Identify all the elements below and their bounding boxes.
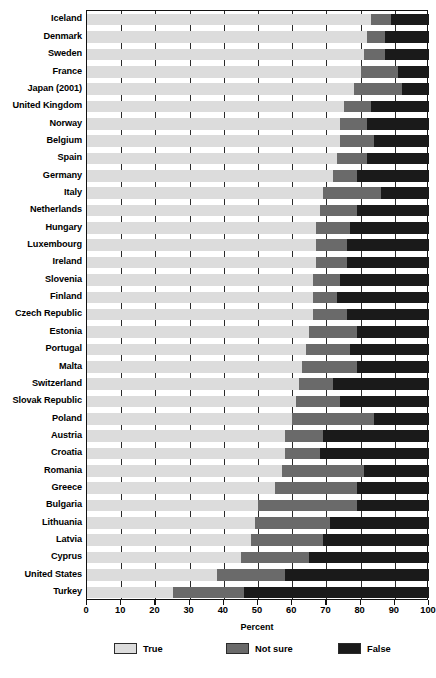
- bar-segment-false: [350, 344, 429, 356]
- legend-item-not-sure[interactable]: Not sure: [226, 643, 293, 654]
- bar-row: [87, 14, 427, 26]
- category-label: Malta: [0, 361, 82, 371]
- bar-row: [87, 534, 427, 546]
- bar-segment-false: [367, 118, 429, 130]
- bar-segment-false: [385, 31, 429, 43]
- bar-row: [87, 326, 427, 338]
- category-label: Lithuania: [0, 517, 82, 527]
- bar-segment-true: [87, 552, 241, 564]
- bar-segment-not-sure: [313, 274, 340, 286]
- bar-segment-true: [87, 534, 251, 546]
- tick-label: 80: [354, 605, 364, 615]
- tick-label: 90: [389, 605, 399, 615]
- bar-segment-true: [87, 344, 306, 356]
- bar-segment-false: [347, 239, 429, 251]
- category-label: Latvia: [0, 534, 82, 544]
- bar-row: [87, 257, 427, 269]
- bar-segment-not-sure: [367, 31, 384, 43]
- bar-segment-false: [357, 326, 429, 338]
- bar-row: [87, 552, 427, 564]
- bar-segment-not-sure: [173, 587, 245, 599]
- bar-segment-not-sure: [282, 465, 364, 477]
- bar-segment-not-sure: [309, 326, 357, 338]
- category-label: Japan (2001): [0, 83, 82, 93]
- bar-row: [87, 66, 427, 78]
- bar-segment-not-sure: [340, 135, 374, 147]
- category-label: Germany: [0, 170, 82, 180]
- bar-row: [87, 292, 427, 304]
- bar-segment-true: [87, 153, 337, 165]
- category-label: Estonia: [0, 326, 82, 336]
- category-label: Switzerland: [0, 378, 82, 388]
- plot-area: [86, 10, 428, 600]
- bar-segment-not-sure: [292, 413, 374, 425]
- category-label: Austria: [0, 430, 82, 440]
- category-label: Spain: [0, 152, 82, 162]
- bar-segment-true: [87, 482, 275, 494]
- bar-segment-true: [87, 500, 258, 512]
- bar-segment-not-sure: [316, 222, 350, 234]
- bar-segment-true: [87, 187, 323, 199]
- bar-segment-false: [347, 257, 429, 269]
- category-label: Poland: [0, 413, 82, 423]
- bar-segment-true: [87, 569, 217, 581]
- bar-segment-false: [391, 14, 429, 26]
- bar-row: [87, 482, 427, 494]
- bars-layer: [87, 11, 427, 599]
- bar-segment-false: [340, 396, 429, 408]
- bar-segment-not-sure: [340, 118, 367, 130]
- bar-segment-not-sure: [299, 378, 333, 390]
- bar-segment-true: [87, 465, 282, 477]
- category-label: Luxembourg: [0, 239, 82, 249]
- bar-segment-false: [323, 430, 429, 442]
- bar-segment-false: [357, 205, 429, 217]
- bar-segment-true: [87, 170, 333, 182]
- bar-row: [87, 153, 427, 165]
- bar-segment-true: [87, 361, 302, 373]
- bar-segment-false: [402, 83, 429, 95]
- legend-item-false[interactable]: False: [338, 643, 391, 654]
- bar-segment-not-sure: [313, 309, 347, 321]
- bar-row: [87, 378, 427, 390]
- bar-row: [87, 448, 427, 460]
- bar-segment-true: [87, 101, 344, 113]
- bar-segment-false: [350, 222, 429, 234]
- bar-row: [87, 274, 427, 286]
- bar-row: [87, 31, 427, 43]
- tick-label: 30: [183, 605, 193, 615]
- category-label: Italy: [0, 187, 82, 197]
- bar-row: [87, 205, 427, 217]
- bar-row: [87, 83, 427, 95]
- bar-segment-true: [87, 31, 367, 43]
- legend-item-true[interactable]: True: [114, 643, 163, 654]
- bar-row: [87, 135, 427, 147]
- bar-segment-not-sure: [217, 569, 285, 581]
- category-label: Romania: [0, 465, 82, 475]
- bar-row: [87, 187, 427, 199]
- bar-segment-true: [87, 587, 173, 599]
- legend: TrueNot sureFalse: [86, 643, 428, 663]
- bar-segment-true: [87, 413, 292, 425]
- bar-segment-false: [285, 569, 429, 581]
- bar-segment-not-sure: [361, 66, 399, 78]
- bar-segment-true: [87, 448, 285, 460]
- bar-segment-false: [367, 153, 429, 165]
- category-label: Turkey: [0, 586, 82, 596]
- bar-segment-true: [87, 135, 340, 147]
- tick-label: 10: [115, 605, 125, 615]
- bar-segment-false: [337, 292, 429, 304]
- x-axis-title: Percent: [86, 622, 428, 632]
- bar-segment-false: [357, 361, 429, 373]
- category-label: United States: [0, 569, 82, 579]
- bar-segment-false: [398, 66, 429, 78]
- category-label: Portugal: [0, 343, 82, 353]
- bar-row: [87, 344, 427, 356]
- bar-segment-true: [87, 517, 255, 529]
- bar-segment-not-sure: [337, 153, 368, 165]
- bar-row: [87, 239, 427, 251]
- legend-swatch-icon: [114, 643, 137, 654]
- bar-segment-false: [309, 552, 429, 564]
- tick-label: 50: [252, 605, 262, 615]
- bar-row: [87, 396, 427, 408]
